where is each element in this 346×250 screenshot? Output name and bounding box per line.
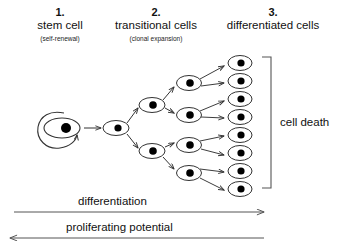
transitional-cell-gen3-3 <box>177 138 202 153</box>
transitional-cell-gen2-upper <box>139 98 165 113</box>
transitional-cell-gen1 <box>103 121 129 136</box>
column-subtitle-clonal-expansion: (clonal expansion) <box>130 35 183 43</box>
arrows-gen2-to-gen3 <box>163 87 174 169</box>
cell-death-label: cell death <box>280 116 329 128</box>
column-number-2: 2. <box>151 6 160 19</box>
column-header-transitional-cells: 2. transitional cells (clonal expansion) <box>96 6 216 42</box>
column-title-differentiated-cells: differentiated cells <box>227 19 319 33</box>
differentiated-cell-8 <box>228 182 252 197</box>
stem-cell-differentiation-figure: 1. stem cell (self-renewal) 2. transitio… <box>0 0 346 250</box>
differentiated-cell-4 <box>228 110 252 125</box>
transitional-cell-gen2-lower <box>139 144 165 159</box>
column-subtitle-self-renewal: (self-renewal) <box>40 35 79 43</box>
transitional-cell-gen3-4 <box>177 166 202 181</box>
column-number-3: 3. <box>268 6 277 19</box>
column-number-1: 1. <box>55 6 64 19</box>
cell-death-bracket <box>262 57 271 188</box>
differentiated-cell-5 <box>228 128 252 143</box>
column-title-stem-cell: stem cell <box>37 19 82 33</box>
differentiated-cell-3 <box>228 92 252 107</box>
differentiated-cell-1 <box>228 56 252 71</box>
differentiated-cell-7 <box>228 164 252 179</box>
differentiated-cell-6 <box>228 146 252 161</box>
stem-cell <box>44 118 80 138</box>
transitional-cell-gen3-1 <box>177 76 202 91</box>
proliferating-potential-label: proliferating potential <box>66 221 173 233</box>
transitional-cell-gen3-2 <box>177 108 202 123</box>
differentiation-label: differentiation <box>78 195 147 207</box>
arrows-gen3-to-differentiated <box>200 66 224 190</box>
column-title-transitional-cells: transitional cells <box>115 19 197 33</box>
column-header-differentiated-cells: 3. differentiated cells <box>208 6 338 33</box>
differentiated-cell-2 <box>228 74 252 89</box>
